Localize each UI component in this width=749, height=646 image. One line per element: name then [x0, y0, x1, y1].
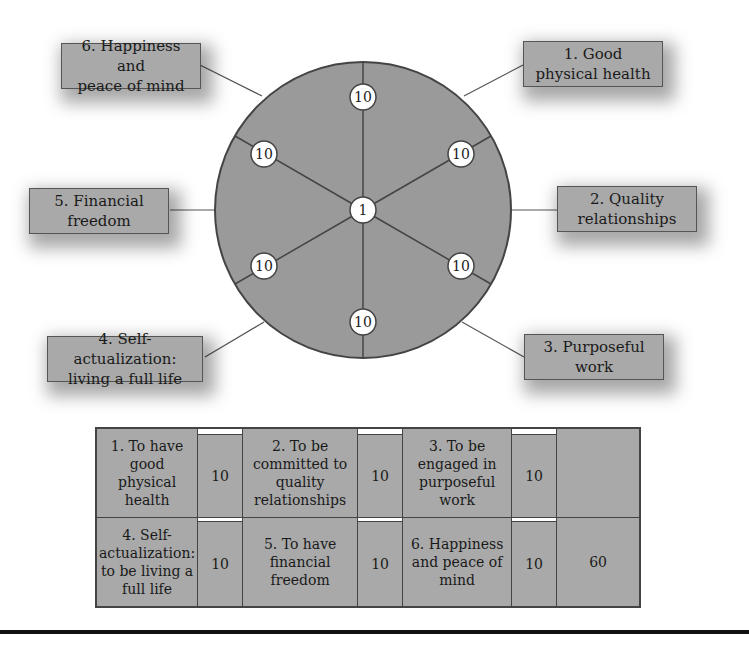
label-good-physical-health: 1. Goodphysical health — [523, 41, 663, 87]
max-score-cell: 10 — [358, 522, 403, 607]
max-score-cell: 10 — [198, 435, 243, 518]
spoke-node-3: 10 — [448, 253, 474, 279]
total-score-cell: 60 — [557, 517, 640, 607]
label-line: 3. Purposeful — [543, 337, 644, 357]
svg-text:1: 1 — [359, 202, 368, 218]
label-line: 4. Self-actualization: — [52, 329, 198, 369]
goals-score-table: 1. To have good physical health 2. To be… — [95, 427, 641, 608]
goal-cell: 4. Self-actualization: to be living a fu… — [96, 517, 198, 607]
svg-text:10: 10 — [354, 89, 372, 105]
max-score-cell: 10 — [358, 435, 403, 518]
label-line: 5. Financial — [54, 191, 144, 211]
goal-cell: 1. To have good physical health — [96, 428, 198, 517]
label-line: physical health — [535, 64, 650, 84]
svg-text:10: 10 — [452, 146, 470, 162]
label-purposeful-work: 3. Purposefulwork — [524, 334, 664, 380]
label-line: living a full life — [52, 369, 198, 389]
svg-text:10: 10 — [255, 258, 273, 274]
svg-text:10: 10 — [255, 146, 273, 162]
spoke-node-5: 10 — [251, 253, 277, 279]
label-line: 6. Happiness and — [66, 36, 196, 76]
svg-text:10: 10 — [354, 314, 372, 330]
label-line: peace of mind — [66, 76, 196, 96]
label-line: relationships — [578, 209, 677, 229]
bottom-rule — [0, 630, 749, 634]
label-line: 1. Good — [535, 44, 650, 64]
goal-cell: 3. To be engaged in purposeful work — [403, 428, 512, 517]
spoke-node-1: 10 — [350, 84, 376, 110]
total-empty-cell — [557, 428, 640, 517]
spoke-node-2: 10 — [448, 141, 474, 167]
center-node: 1 — [350, 197, 376, 223]
label-line: freedom — [54, 211, 144, 231]
max-score-cell: 10 — [512, 522, 557, 607]
spoke-node-4: 10 — [350, 309, 376, 335]
label-happiness-peace: 6. Happiness andpeace of mind — [61, 43, 201, 89]
goal-cell: 5. To have financial freedom — [243, 517, 358, 607]
label-quality-relationships: 2. Qualityrelationships — [557, 186, 697, 232]
goal-cell: 2. To be committed to quality relationsh… — [243, 428, 358, 517]
goal-cell: 6. Happiness and peace of mind — [403, 517, 512, 607]
spoke-node-6: 10 — [251, 141, 277, 167]
label-self-actualization: 4. Self-actualization:living a full life — [47, 336, 203, 382]
svg-text:10: 10 — [452, 258, 470, 274]
label-line: 2. Quality — [578, 189, 677, 209]
max-score-cell: 10 — [512, 435, 557, 518]
label-financial-freedom: 5. Financialfreedom — [29, 188, 169, 234]
max-score-cell: 10 — [198, 522, 243, 607]
label-line: work — [543, 357, 644, 377]
